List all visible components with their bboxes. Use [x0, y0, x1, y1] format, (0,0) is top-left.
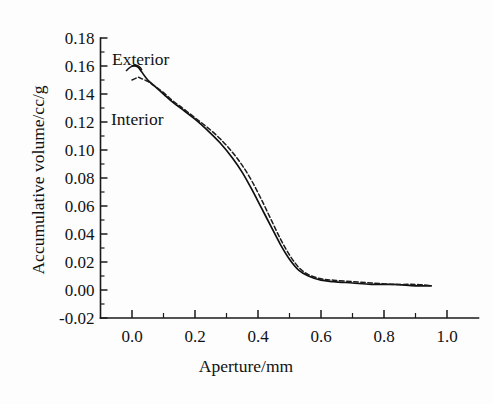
y-tick-label: 0.02: [65, 253, 95, 272]
x-axis-title: Aperture/mm: [199, 356, 294, 376]
y-tick-label: 0.06: [65, 197, 95, 216]
y-tick-label: 0.14: [65, 85, 95, 104]
x-tick-label: 0.0: [121, 327, 142, 346]
series-label-exterior: Exterior: [112, 49, 170, 69]
y-tick-label: 0.16: [65, 57, 95, 76]
y-axis-ticks: [101, 38, 108, 318]
y-tick-label: 0.10: [65, 141, 95, 160]
y-axis-tick-labels: 0.180.160.140.120.100.080.060.040.020.00…: [59, 29, 95, 328]
y-tick-label: 0.08: [65, 169, 95, 188]
figure-container: 0.180.160.140.120.100.080.060.040.020.00…: [0, 0, 493, 404]
y-tick-label: 0.18: [65, 29, 95, 48]
x-tick-label: 0.8: [373, 327, 394, 346]
x-axis-ticks: [132, 310, 447, 318]
series-line-exterior: [132, 66, 431, 286]
x-tick-label: 1.0: [436, 327, 457, 346]
y-tick-label: 0.04: [65, 225, 95, 244]
data-series-group: [132, 66, 431, 286]
series-line-interior: [132, 77, 431, 286]
x-tick-label: 0.2: [184, 327, 205, 346]
x-axis-tick-labels: 0.00.20.40.60.81.0: [121, 327, 457, 346]
series-label-interior: Interior: [111, 109, 164, 129]
y-axis-title: Accumulative volume/cc/g: [28, 85, 48, 274]
axes-group: [101, 38, 479, 318]
y-tick-label: 0.00: [65, 281, 95, 300]
y-tick-label: 0.12: [65, 113, 95, 132]
y-tick-label: -0.02: [59, 309, 94, 328]
x-tick-label: 0.6: [310, 327, 331, 346]
accumulative-volume-line-chart: 0.180.160.140.120.100.080.060.040.020.00…: [0, 0, 493, 404]
x-tick-label: 0.4: [247, 327, 269, 346]
